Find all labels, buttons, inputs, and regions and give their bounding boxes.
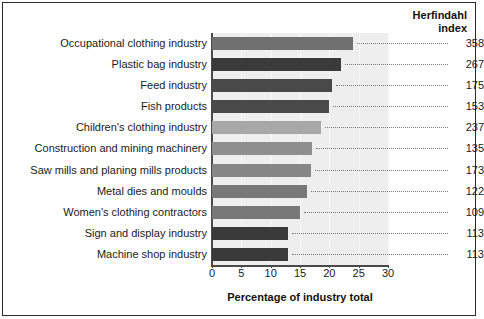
tick-label-25: 25 [347, 267, 371, 280]
leader-line [292, 254, 448, 255]
category-label: Construction and mining machinery [7, 138, 207, 159]
leader-line [292, 233, 448, 234]
herfindahl-index-header-line1: Herfindahl [347, 9, 467, 22]
bar-row: Women's clothing contractors109 [212, 202, 388, 223]
herfindahl-index-value: 153 [450, 96, 484, 117]
bar-row: Sign and display industry113 [212, 223, 388, 244]
x-axis-title: Percentage of industry total [212, 291, 388, 303]
tick-label-20: 20 [317, 267, 341, 280]
bar-row: Saw mills and planing mills products173 [212, 160, 388, 181]
herfindahl-index-value: 267 [450, 54, 484, 75]
bar [212, 164, 311, 177]
plot-area: Occupational clothing industry358Plastic… [212, 33, 388, 265]
chart-figure: Herfindahl index Occupational clothing i… [2, 2, 476, 316]
bar [212, 121, 321, 134]
category-label: Children's clothing industry [7, 117, 207, 138]
leader-line [316, 148, 448, 149]
tick-label-0: 0 [200, 267, 224, 280]
herfindahl-index-value: 237 [450, 117, 484, 138]
bar-row: Construction and mining machinery135 [212, 138, 388, 159]
bar [212, 227, 288, 240]
category-label: Plastic bag industry [7, 54, 207, 75]
tick-label-15: 15 [288, 267, 312, 280]
bar [212, 37, 353, 50]
bar-row: Feed industry175 [212, 75, 388, 96]
herfindahl-index-value: 135 [450, 138, 484, 159]
bar-row: Fish products153 [212, 96, 388, 117]
bar [212, 58, 341, 71]
herfindahl-index-value: 109 [450, 202, 484, 223]
category-label: Sign and display industry [7, 223, 207, 244]
bar [212, 248, 288, 261]
tick-label-10: 10 [259, 267, 283, 280]
tick-label-30: 30 [376, 267, 400, 280]
category-label: Metal dies and moulds [7, 181, 207, 202]
herfindahl-index-value: 113 [450, 244, 484, 265]
category-label: Women's clothing contractors [7, 202, 207, 223]
leader-line [333, 106, 448, 107]
bar-row: Metal dies and moulds122 [212, 181, 388, 202]
bar-row: Children's clothing industry237 [212, 117, 388, 138]
tick-label-5: 5 [229, 267, 253, 280]
bar [212, 142, 312, 155]
bar-row: Plastic bag industry267 [212, 54, 388, 75]
category-label: Occupational clothing industry [7, 33, 207, 54]
category-label: Saw mills and planing mills products [7, 160, 207, 181]
leader-line [311, 191, 448, 192]
leader-line [315, 170, 448, 171]
herfindahl-index-header: Herfindahl index [347, 9, 467, 34]
herfindahl-index-value: 173 [450, 160, 484, 181]
category-label: Feed industry [7, 75, 207, 96]
leader-line [304, 212, 448, 213]
bar-row: Occupational clothing industry358 [212, 33, 388, 54]
leader-line [336, 85, 448, 86]
bar [212, 206, 300, 219]
bar [212, 100, 329, 113]
bar [212, 79, 332, 92]
bar [212, 185, 307, 198]
herfindahl-index-value: 358 [450, 33, 484, 54]
leader-line [345, 64, 448, 65]
category-label: Fish products [7, 96, 207, 117]
herfindahl-index-value: 122 [450, 181, 484, 202]
herfindahl-index-value: 113 [450, 223, 484, 244]
category-label: Machine shop industry [7, 244, 207, 265]
bar-row: Machine shop industry113 [212, 244, 388, 265]
leader-line [325, 127, 448, 128]
herfindahl-index-value: 175 [450, 75, 484, 96]
leader-line [357, 43, 448, 44]
